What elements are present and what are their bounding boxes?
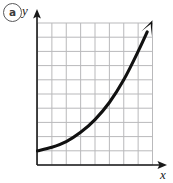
exponential-graph-figure: a y x	[0, 0, 173, 183]
plot-canvas	[0, 0, 173, 183]
grid-lines	[38, 23, 153, 165]
